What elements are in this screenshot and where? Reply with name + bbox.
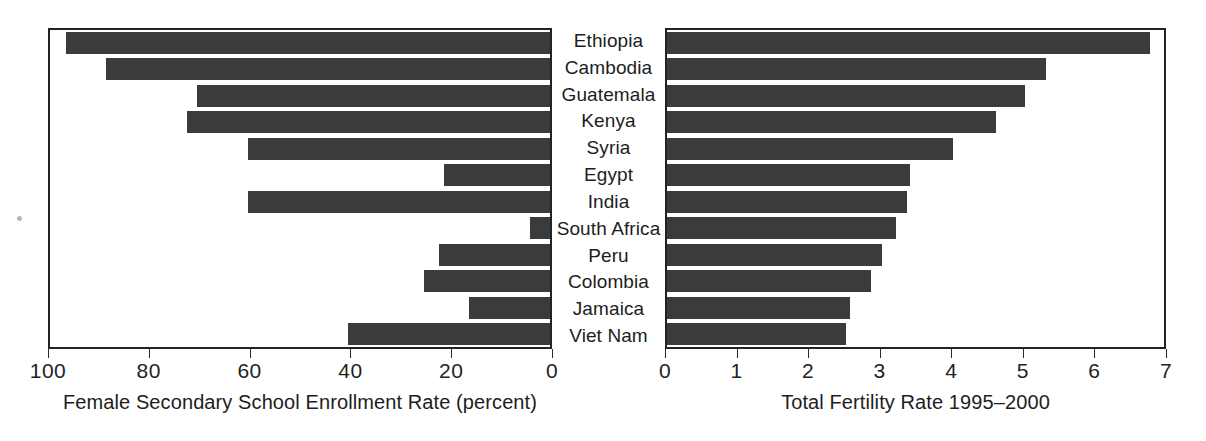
fertility-bar bbox=[667, 217, 896, 239]
fertility-axis-tick bbox=[808, 349, 809, 358]
enrollment-axis-tick bbox=[552, 349, 553, 358]
fertility-bar bbox=[667, 244, 882, 266]
table-row bbox=[50, 138, 550, 160]
table-row bbox=[50, 244, 550, 266]
country-label: Jamaica bbox=[552, 298, 665, 320]
fertility-axis-tick-label: 4 bbox=[945, 359, 957, 383]
fertility-bar bbox=[667, 164, 910, 186]
fertility-bar bbox=[667, 85, 1025, 107]
fertility-axis-tick bbox=[665, 349, 666, 358]
table-row bbox=[667, 111, 1164, 133]
fertility-axis-tick-label: 0 bbox=[659, 359, 671, 383]
country-label-column: EthiopiaCambodiaGuatemalaKenyaSyriaEgypt… bbox=[552, 28, 665, 349]
enrollment-bar-rows bbox=[50, 30, 550, 347]
country-label: Egypt bbox=[552, 164, 665, 186]
fertility-axis-tick bbox=[951, 349, 952, 358]
enrollment-axis-tick-label: 40 bbox=[338, 359, 362, 383]
table-row bbox=[667, 85, 1164, 107]
table-row bbox=[667, 217, 1164, 239]
country-label: Ethiopia bbox=[552, 30, 665, 52]
enrollment-axis-tick-label: 100 bbox=[30, 359, 67, 383]
fertility-rate-plot-area bbox=[665, 28, 1166, 349]
table-row bbox=[50, 297, 550, 319]
table-row bbox=[667, 191, 1164, 213]
table-row bbox=[50, 191, 550, 213]
country-label: Peru bbox=[552, 245, 665, 267]
fertility-axis-tick-label: 7 bbox=[1160, 359, 1172, 383]
enrollment-bar bbox=[197, 85, 550, 107]
fertility-bar-rows bbox=[667, 30, 1164, 347]
table-row bbox=[50, 58, 550, 80]
table-row bbox=[667, 297, 1164, 319]
table-row bbox=[50, 217, 550, 239]
fertility-bar bbox=[667, 111, 996, 133]
paired-bar-chart-figure: 100806040200 Female Secondary School Enr… bbox=[0, 0, 1206, 441]
fertility-axis-tick bbox=[1094, 349, 1095, 358]
enrollment-bar bbox=[66, 32, 550, 54]
country-label: Kenya bbox=[552, 110, 665, 132]
table-row bbox=[50, 323, 550, 345]
fertility-bar bbox=[667, 270, 871, 292]
fertility-bar bbox=[667, 297, 850, 319]
enrollment-axis-tick bbox=[350, 349, 351, 358]
enrollment-bar bbox=[469, 297, 550, 319]
table-row bbox=[50, 270, 550, 292]
country-label: Viet Nam bbox=[552, 325, 665, 347]
fertility-bar bbox=[667, 191, 907, 213]
enrollment-bar bbox=[187, 111, 550, 133]
enrollment-bar bbox=[248, 138, 550, 160]
country-label: India bbox=[552, 191, 665, 213]
table-row bbox=[667, 244, 1164, 266]
fertility-bar bbox=[667, 58, 1046, 80]
enrollment-bar bbox=[248, 191, 550, 213]
table-row bbox=[50, 164, 550, 186]
table-row bbox=[667, 138, 1164, 160]
fertility-axis-tick-label: 5 bbox=[1017, 359, 1029, 383]
enrollment-axis-tick-label: 60 bbox=[237, 359, 261, 383]
fertility-axis-tick-label: 3 bbox=[874, 359, 886, 383]
country-label: South Africa bbox=[552, 218, 665, 240]
enrollment-rate-plot-area bbox=[48, 28, 552, 349]
fertility-axis-tick bbox=[737, 349, 738, 358]
table-row bbox=[667, 58, 1164, 80]
country-label: Syria bbox=[552, 137, 665, 159]
fertility-bar bbox=[667, 323, 846, 345]
enrollment-bar bbox=[530, 217, 550, 239]
table-row bbox=[50, 111, 550, 133]
table-row bbox=[667, 323, 1164, 345]
fertility-bar bbox=[667, 32, 1150, 54]
fertility-axis-tick-label: 1 bbox=[730, 359, 742, 383]
fertility-axis-tick bbox=[1023, 349, 1024, 358]
table-row bbox=[667, 164, 1164, 186]
enrollment-x-axis: 100806040200 bbox=[48, 349, 552, 350]
fertility-axis-tick-label: 2 bbox=[802, 359, 814, 383]
table-row bbox=[667, 32, 1164, 54]
fertility-axis-title: Total Fertility Rate 1995–2000 bbox=[665, 391, 1166, 414]
fertility-axis-tick-label: 6 bbox=[1088, 359, 1100, 383]
enrollment-axis-tick bbox=[48, 349, 49, 358]
enrollment-axis-tick-label: 0 bbox=[546, 359, 558, 383]
table-row bbox=[50, 32, 550, 54]
country-label: Guatemala bbox=[552, 84, 665, 106]
enrollment-axis-tick bbox=[149, 349, 150, 358]
enrollment-axis-tick-label: 80 bbox=[137, 359, 161, 383]
enrollment-bar bbox=[348, 323, 550, 345]
enrollment-bar bbox=[444, 164, 550, 186]
fertility-x-axis: 01234567 bbox=[665, 349, 1166, 350]
enrollment-bar bbox=[106, 58, 550, 80]
fertility-bar bbox=[667, 138, 953, 160]
enrollment-axis-title: Female Secondary School Enrollment Rate … bbox=[48, 391, 552, 414]
country-label: Cambodia bbox=[552, 57, 665, 79]
fertility-axis-tick bbox=[880, 349, 881, 358]
fertility-axis-tick bbox=[1166, 349, 1167, 358]
enrollment-axis-tick bbox=[451, 349, 452, 358]
country-label: Colombia bbox=[552, 271, 665, 293]
enrollment-bar bbox=[439, 244, 550, 266]
table-row bbox=[50, 85, 550, 107]
scan-artifact-speck bbox=[17, 216, 22, 221]
table-row bbox=[667, 270, 1164, 292]
enrollment-axis-tick bbox=[250, 349, 251, 358]
enrollment-axis-tick-label: 20 bbox=[439, 359, 463, 383]
enrollment-bar bbox=[424, 270, 550, 292]
